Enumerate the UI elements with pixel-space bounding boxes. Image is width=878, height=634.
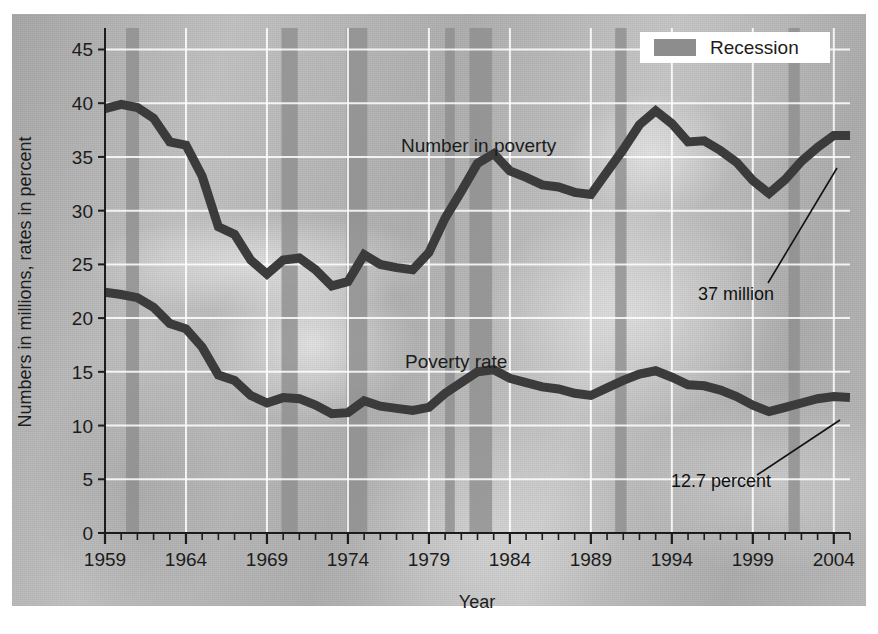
x-axis-tick-labels: 1959196419691974197919841989199419992004 [84,549,856,570]
y-tick-label: 15 [72,362,93,383]
y-tick-label: 30 [72,201,93,222]
x-tick-label: 1969 [246,549,288,570]
x-tick-label: 1989 [570,549,612,570]
y-tick-label: 0 [82,523,93,544]
legend-label-recession: Recession [710,37,799,58]
x-tick-label: 1994 [651,549,694,570]
series-label-poverty-rate: Poverty rate [405,351,507,372]
y-axis-title: Numbers in millions, rates in percent [15,136,35,427]
annotation-37-million: 37 million [698,284,774,304]
y-tick-label: 40 [72,93,93,114]
x-tick-label: 1964 [165,549,208,570]
annotation-12-7-percent: 12.7 percent [671,471,771,491]
series-label-number-in-poverty: Number in poverty [401,135,557,156]
chart-page: 051015202530354045 195919641969197419791… [0,0,878,634]
y-axis-tick-labels: 051015202530354045 [72,39,93,544]
legend: Recession [640,32,830,63]
x-axis-ticks [105,533,850,544]
y-tick-label: 20 [72,308,93,329]
x-axis-title: Year [459,592,495,612]
poverty-chart: 051015202530354045 195919641969197419791… [0,0,878,634]
legend-swatch-recession [654,39,696,56]
x-tick-label: 2004 [813,549,856,570]
y-tick-label: 35 [72,147,93,168]
x-tick-label: 1984 [489,549,532,570]
y-tick-label: 5 [82,469,93,490]
y-tick-label: 10 [72,416,93,437]
y-tick-label: 45 [72,39,93,60]
y-tick-label: 25 [72,254,93,275]
figure: 051015202530354045 195919641969197419791… [0,0,878,634]
x-tick-label: 1999 [732,549,774,570]
x-tick-label: 1974 [327,549,370,570]
x-tick-label: 1979 [408,549,450,570]
x-tick-label: 1959 [84,549,126,570]
y-axis-ticks [98,49,105,533]
